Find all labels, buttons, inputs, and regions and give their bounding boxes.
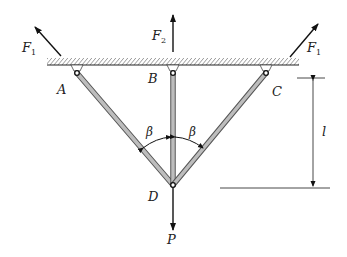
label-F1-left: F1 [21,40,36,57]
joint-D [171,183,176,188]
label-P: P [166,232,176,247]
ceiling [47,58,299,65]
truss-diagram: F1 F2 F1 P A B C D β β l [0,0,347,257]
label-F2: F2 [151,28,166,45]
label-C: C [272,84,282,99]
label-dimension-l: l [322,124,326,139]
label-F1-right: F1 [306,40,321,57]
label-beta-left: β [145,125,153,139]
bar-CD [173,73,266,185]
label-D: D [147,189,159,204]
bar-AD [77,73,173,185]
support-B [167,65,179,75]
label-B: B [147,71,158,86]
label-A: A [56,82,66,97]
force-F1-left-arrow [35,27,61,56]
label-beta-right: β [188,125,196,139]
